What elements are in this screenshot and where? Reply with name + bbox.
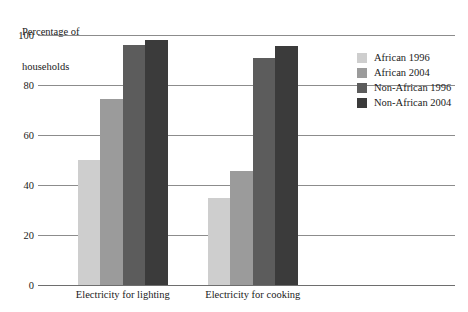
legend-swatch [357, 53, 367, 63]
bar-chart: Percentage of households 020406080100Ele… [0, 0, 468, 312]
gridline [38, 285, 455, 286]
y-axis-tick-label: 0 [4, 280, 34, 291]
legend-label: Non-African 2004 [374, 97, 451, 108]
bar [230, 171, 252, 285]
bar [208, 198, 230, 286]
plot-area: 020406080100Electricity for lightingElec… [0, 0, 468, 312]
bar [123, 45, 145, 285]
y-axis-tick-label: 40 [4, 180, 34, 191]
legend-swatch [357, 98, 367, 108]
legend-item: African 1996 [357, 50, 451, 65]
y-axis-tick-label: 20 [4, 230, 34, 241]
x-axis-category-label: Electricity for lighting [76, 289, 170, 300]
bar [253, 58, 275, 286]
legend-label: African 2004 [374, 67, 430, 78]
y-axis-tick-label: 100 [4, 30, 34, 41]
bar [78, 160, 100, 285]
bar [100, 99, 122, 285]
legend-label: African 1996 [374, 52, 430, 63]
gridline [38, 35, 455, 36]
legend-item: Non-African 2004 [357, 95, 451, 110]
y-axis-tick-label: 60 [4, 130, 34, 141]
legend-swatch [357, 68, 367, 78]
bar [145, 40, 167, 285]
legend-item: Non-African 1996 [357, 80, 451, 95]
legend: African 1996African 2004Non-African 1996… [357, 50, 451, 110]
legend-swatch [357, 83, 367, 93]
x-axis-category-label: Electricity for cooking [205, 289, 300, 300]
y-axis-tick-label: 80 [4, 80, 34, 91]
legend-label: Non-African 1996 [374, 82, 451, 93]
legend-item: African 2004 [357, 65, 451, 80]
bar [275, 46, 297, 285]
